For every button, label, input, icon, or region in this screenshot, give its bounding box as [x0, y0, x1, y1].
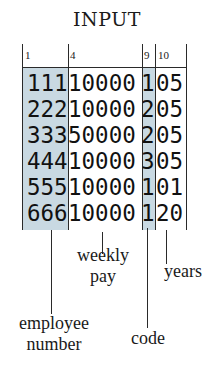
weekly-pay: 10000 [68, 148, 136, 175]
label-years: years [156, 261, 210, 282]
employee-number: 555 [27, 174, 68, 201]
years: 20 [156, 200, 183, 227]
employee-number: 444 [27, 148, 68, 175]
leader-line-employee-number [51, 230, 52, 314]
page-title: INPUT [0, 8, 214, 30]
weekly-pay: 10000 [68, 96, 136, 123]
employee-number: 111 [27, 70, 68, 97]
header-divider [22, 67, 187, 68]
years: 05 [156, 70, 183, 97]
record-row: 555 10000 1 01 [0, 174, 27, 201]
weekly-pay: 50000 [68, 122, 136, 149]
years: 05 [156, 122, 183, 149]
years: 05 [156, 96, 183, 123]
years: 01 [156, 174, 183, 201]
employee-number: 666 [27, 200, 68, 227]
record-row: 444 10000 3 05 [0, 148, 27, 175]
weekly-pay: 10000 [68, 200, 136, 227]
record-row: 666 10000 1 20 [0, 200, 27, 227]
leader-line-code [147, 228, 148, 328]
column-number-4: 4 [70, 49, 76, 61]
code: 2 [141, 96, 155, 123]
code: 1 [141, 200, 155, 227]
weekly-pay: 10000 [68, 174, 136, 201]
column-number-9: 9 [144, 49, 150, 61]
label-code: code [120, 328, 176, 349]
code: 1 [141, 174, 155, 201]
record-row: 111 10000 1 05 [0, 70, 27, 97]
employee-number: 333 [27, 122, 68, 149]
label-employee-number: employee number [4, 313, 104, 355]
code: 1 [141, 70, 155, 97]
leader-line-years [166, 230, 167, 264]
code: 2 [141, 122, 155, 149]
column-number-1: 1 [25, 49, 31, 61]
record-row: 333 50000 2 05 [0, 122, 27, 149]
years: 05 [156, 148, 183, 175]
label-weekly-pay: weekly pay [66, 245, 140, 287]
weekly-pay: 10000 [68, 70, 136, 97]
card-right-border [186, 44, 187, 230]
column-number-10: 10 [158, 49, 169, 61]
employee-number: 222 [27, 96, 68, 123]
record-row: 222 10000 2 05 [0, 96, 27, 123]
code: 3 [141, 148, 155, 175]
